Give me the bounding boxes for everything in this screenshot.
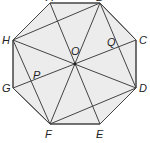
label-e: E: [96, 128, 104, 140]
octagon-diagram: H C G D F E A B O P Q: [0, 0, 150, 143]
center-point: [74, 63, 77, 66]
label-o: O: [71, 45, 80, 57]
label-h: H: [2, 34, 10, 46]
label-d: D: [139, 82, 147, 94]
label-b: B: [96, 0, 103, 3]
label-f: F: [45, 128, 53, 140]
label-g: G: [2, 82, 11, 94]
label-q: Q: [107, 36, 116, 48]
label-c: C: [139, 34, 147, 46]
label-p: P: [33, 69, 41, 81]
label-a: A: [45, 0, 53, 3]
